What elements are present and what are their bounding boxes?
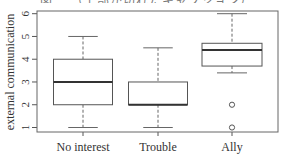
y-tick-label: 2: [19, 102, 31, 108]
boxplot-chart: external communication 123456 No interes…: [0, 0, 282, 156]
x-tick-label: Trouble: [139, 140, 177, 154]
y-axis-label: external communication: [3, 14, 17, 130]
x-axis: No interestTroubleAlly: [57, 132, 243, 154]
box-ally: [202, 14, 262, 130]
y-tick-label: 3: [19, 79, 31, 85]
x-tick-label: No interest: [57, 140, 111, 154]
box-series: [54, 14, 263, 130]
box-no-interest: [54, 36, 113, 127]
y-tick-label: 6: [19, 10, 31, 16]
y-tick-label: 5: [19, 33, 31, 39]
x-tick-label: Ally: [221, 140, 242, 154]
outlier-point: [229, 102, 234, 107]
y-tick-label: 1: [19, 125, 31, 131]
y-axis: 123456: [19, 10, 37, 130]
outlier-point: [229, 125, 234, 130]
iqr-box: [202, 43, 262, 66]
y-axis-label-group: external communication: [3, 14, 17, 130]
y-tick-label: 4: [19, 56, 31, 62]
iqr-box: [129, 82, 188, 105]
box-trouble: [129, 48, 188, 128]
